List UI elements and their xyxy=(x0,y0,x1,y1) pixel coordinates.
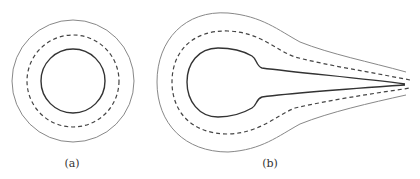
panel-b-inner-contour xyxy=(187,48,405,117)
panel-a: (a) xyxy=(12,20,134,170)
panel-a-inner-contour xyxy=(41,49,105,113)
panel-b-label: (b) xyxy=(262,157,278,170)
panel-b-outer-contour xyxy=(157,13,406,152)
panel-a-outer-contour xyxy=(12,20,134,142)
panel-a-label: (a) xyxy=(64,157,79,170)
diagram-canvas: (a) (b) xyxy=(0,0,420,179)
panel-b: (b) xyxy=(157,13,410,170)
panel-b-dashed-contour xyxy=(172,31,410,134)
